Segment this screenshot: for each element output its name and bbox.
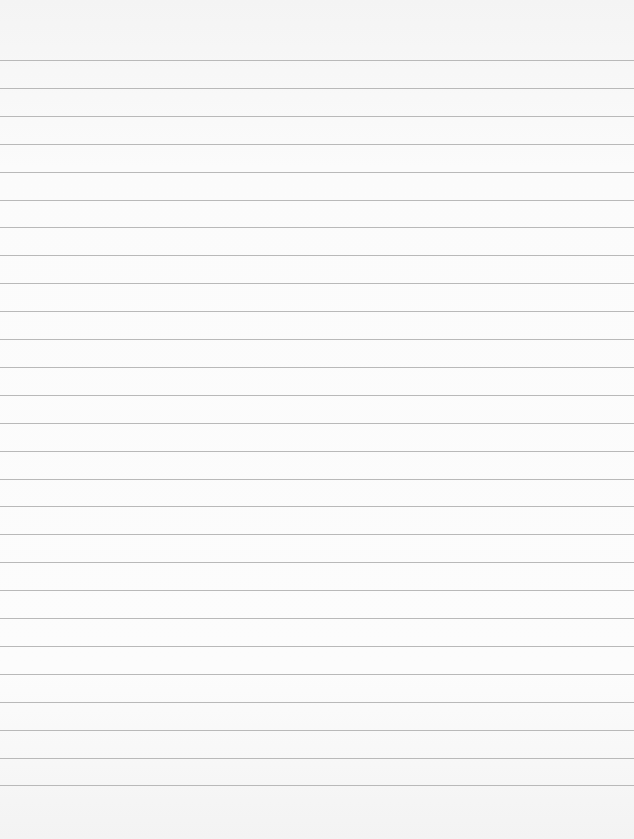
ruled-line bbox=[0, 618, 634, 619]
ruled-line bbox=[0, 227, 634, 228]
ruled-line bbox=[0, 562, 634, 563]
ruled-line bbox=[0, 88, 634, 89]
ruled-line bbox=[0, 674, 634, 675]
ruled-line bbox=[0, 172, 634, 173]
ruled-line bbox=[0, 534, 634, 535]
ruled-line bbox=[0, 785, 634, 786]
ruled-line bbox=[0, 479, 634, 480]
ruled-line bbox=[0, 339, 634, 340]
ruled-line bbox=[0, 60, 634, 61]
ruled-line bbox=[0, 702, 634, 703]
ruled-line bbox=[0, 646, 634, 647]
ruled-line bbox=[0, 758, 634, 759]
ruled-line bbox=[0, 116, 634, 117]
ruled-line bbox=[0, 283, 634, 284]
ruled-line bbox=[0, 367, 634, 368]
ruled-line bbox=[0, 395, 634, 396]
ruled-line bbox=[0, 730, 634, 731]
ruled-line bbox=[0, 144, 634, 145]
ruled-line bbox=[0, 423, 634, 424]
ruled-line bbox=[0, 590, 634, 591]
ruled-line bbox=[0, 255, 634, 256]
ruled-paper bbox=[0, 0, 634, 839]
ruled-line bbox=[0, 200, 634, 201]
ruled-line bbox=[0, 451, 634, 452]
ruled-line bbox=[0, 506, 634, 507]
ruled-line bbox=[0, 311, 634, 312]
